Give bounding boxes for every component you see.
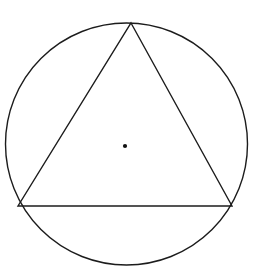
figure-page: y p Circle with inscribed triangle [0,0,258,267]
circle-center-dot [123,144,127,148]
geometry-figure [0,0,258,267]
circumscribed-circle-shape [6,23,248,265]
